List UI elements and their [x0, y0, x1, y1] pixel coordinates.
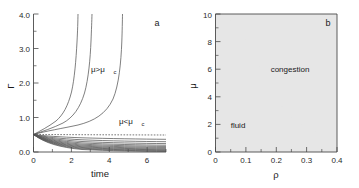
- annotation-mu-less-subscript: c: [142, 121, 145, 127]
- panel-b-xticklabel-0: 0: [213, 156, 218, 165]
- annotation-mu-less-text: μ<μ: [119, 117, 133, 126]
- panel-b-yticklabel-0: 0: [208, 148, 213, 157]
- panel-a-x-ticklabels: 0 2 4 6: [31, 156, 150, 165]
- region-label-congestion: congestion: [271, 65, 310, 74]
- panel-b-xticklabel-3: 0.3: [301, 156, 313, 165]
- panel-a-yticklabel-0: 0.0: [19, 148, 31, 157]
- panel-b-xlabel: ρ: [273, 169, 279, 180]
- panel-a-xticklabel-0: 0: [31, 156, 36, 165]
- figure-container: 0.0 1.0 2.0 3.0 4.0 0 2 4 6 time Γ a: [0, 0, 359, 188]
- panel-a-xticklabel-1: 2: [69, 156, 74, 165]
- annotation-mu-greater-text: μ>μ: [91, 65, 105, 74]
- panel-a-yticklabel-1: 1.0: [19, 114, 31, 123]
- panel-b-yticklabel-5: 10: [203, 11, 212, 20]
- curve-diverging-2: [34, 14, 93, 135]
- decaying-curves: [34, 135, 167, 152]
- panel-b-ylabel: μ: [187, 83, 198, 88]
- panel-b: 0 2 4 6 8 10 0 0.1 0.2 0.3 0.4 ρ μ: [180, 0, 359, 188]
- diverging-curves: [34, 14, 123, 135]
- panel-a-y-ticklabels: 0.0 1.0 2.0 3.0 4.0: [19, 11, 31, 158]
- curve-separatrix: [34, 135, 167, 136]
- panel-b-yticklabel-3: 6: [208, 65, 213, 74]
- annotation-mu-greater-than-muc: μ>μ c: [91, 65, 117, 75]
- curve-diverging-3: [34, 14, 123, 135]
- panel-a-xticklabel-2: 4: [107, 156, 112, 165]
- region-label-fluid: fluid: [231, 121, 246, 130]
- panel-a-plot: 0.0 1.0 2.0 3.0 4.0 0 2 4 6 time Γ a: [0, 0, 180, 188]
- panel-b-y-ticklabels: 0 2 4 6 8 10: [203, 11, 212, 158]
- panel-b-plot: 0 2 4 6 8 10 0 0.1 0.2 0.3 0.4 ρ μ: [180, 0, 359, 188]
- panel-b-xticklabel-1: 0.1: [240, 156, 252, 165]
- panel-b-yticklabel-2: 4: [208, 93, 213, 102]
- panel-b-xticklabel-2: 0.2: [271, 156, 283, 165]
- panel-b-yticklabel-1: 2: [208, 120, 213, 129]
- panel-a-y-ticks: [34, 14, 39, 152]
- panel-a-xticklabel-3: 6: [145, 156, 150, 165]
- panel-b-x-ticklabels: 0 0.1 0.2 0.3 0.4: [213, 156, 343, 165]
- panel-a-yticklabel-2: 2.0: [19, 79, 31, 88]
- panel-b-yticklabel-4: 8: [208, 38, 213, 47]
- panel-b-xticklabel-4: 0.4: [331, 156, 343, 165]
- panel-a-yticklabel-4: 4.0: [19, 11, 31, 20]
- annotation-mu-less-than-muc: μ<μ c: [119, 117, 145, 127]
- panel-a-label: a: [154, 18, 159, 28]
- panel-a-ylabel: Γ: [5, 83, 16, 88]
- annotation-mu-greater-subscript: c: [114, 69, 117, 75]
- panel-a: 0.0 1.0 2.0 3.0 4.0 0 2 4 6 time Γ a: [0, 0, 180, 188]
- panel-a-xlabel: time: [91, 168, 109, 179]
- panel-a-axes: 0.0 1.0 2.0 3.0 4.0 0 2 4 6 time Γ: [5, 11, 166, 180]
- panel-a-yticklabel-3: 3.0: [19, 45, 31, 54]
- panel-b-label: b: [325, 18, 330, 28]
